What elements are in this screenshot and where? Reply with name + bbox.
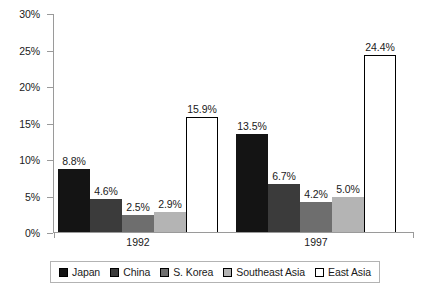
y-axis-tick: 20% — [0, 81, 54, 93]
bar-slot: 4.2% — [300, 14, 332, 233]
bar-value-label: 24.4% — [354, 41, 406, 53]
y-axis-tick-label: 0% — [25, 227, 40, 239]
bar-slot: 8.8% — [58, 14, 90, 233]
legend-swatch-icon — [59, 268, 68, 277]
legend-swatch-icon — [160, 268, 169, 277]
x-axis-tick-mark — [413, 233, 414, 238]
bar-chart: 30%25%20%15%10%5%0% 8.8%4.6%2.5%2.9%15.9… — [0, 0, 429, 297]
legend-swatch-icon — [223, 268, 232, 277]
legend-label: S. Korea — [173, 266, 213, 278]
legend-item[interactable]: Japan — [59, 266, 100, 278]
y-axis-tick: 30% — [0, 8, 54, 20]
y-axis-tick-label: 10% — [19, 154, 40, 166]
plot-area: 8.8%4.6%2.5%2.9%15.9%13.5%6.7%4.2%5.0%24… — [54, 14, 414, 233]
y-axis-tick-label: 15% — [19, 118, 40, 130]
bar-value-label: 15.9% — [176, 103, 228, 115]
y-axis-tick: 10% — [0, 154, 54, 166]
y-axis-tick: 25% — [0, 45, 54, 57]
y-axis-tick: 5% — [0, 191, 54, 203]
legend-item[interactable]: East Asia — [315, 266, 371, 278]
bar[interactable] — [122, 215, 154, 233]
x-axis-group-label: 1992 — [58, 236, 218, 249]
y-axis-tick: 0% — [0, 227, 54, 239]
legend-swatch-icon — [110, 268, 119, 277]
bar[interactable] — [186, 117, 218, 233]
legend-item[interactable]: China — [110, 266, 150, 278]
legend-swatch-icon — [315, 268, 324, 277]
legend-label: Japan — [72, 266, 100, 278]
bar[interactable] — [58, 169, 90, 233]
y-axis-tick-label: 5% — [25, 191, 40, 203]
bar-group-bars: 13.5%6.7%4.2%5.0%24.4% — [236, 14, 396, 233]
x-axis-tick-mark — [54, 233, 55, 238]
legend-item[interactable]: S. Korea — [160, 266, 213, 278]
bar[interactable] — [236, 134, 268, 233]
legend-label: Southeast Asia — [236, 266, 305, 278]
y-axis-tick: 15% — [0, 118, 54, 130]
bar-slot: 2.9% — [154, 14, 186, 233]
bar[interactable] — [332, 197, 364, 234]
bar-group: 13.5%6.7%4.2%5.0%24.4% — [236, 14, 396, 233]
bar-group-bars: 8.8%4.6%2.5%2.9%15.9% — [58, 14, 218, 233]
x-axis-line — [53, 232, 414, 233]
legend-item[interactable]: Southeast Asia — [223, 266, 305, 278]
legend-label: China — [123, 266, 150, 278]
legend-label: East Asia — [328, 266, 371, 278]
y-axis-tick-label: 25% — [19, 45, 40, 57]
bar-slot: 24.4% — [364, 14, 396, 233]
bar[interactable] — [300, 202, 332, 233]
y-axis-tick-mark — [47, 233, 53, 234]
bar-slot: 13.5% — [236, 14, 268, 233]
chart-legend: JapanChinaS. KoreaSoutheast AsiaEast Asi… — [50, 261, 380, 283]
bar-slot: 15.9% — [186, 14, 218, 233]
y-axis: 30%25%20%15%10%5%0% — [0, 8, 54, 233]
bar-group: 8.8%4.6%2.5%2.9%15.9% — [58, 14, 218, 233]
bar[interactable] — [364, 55, 396, 233]
y-axis-tick-label: 20% — [19, 81, 40, 93]
x-axis-group-label: 1997 — [236, 236, 396, 249]
bar[interactable] — [154, 212, 186, 233]
y-axis-tick-label: 30% — [19, 8, 40, 20]
